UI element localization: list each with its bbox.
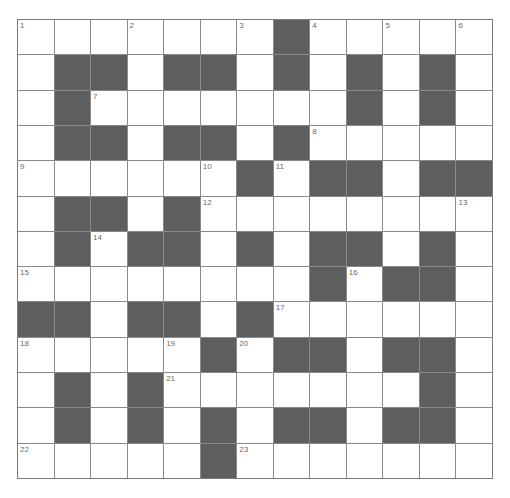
crossword-cell[interactable] [310,55,346,89]
crossword-cell[interactable] [201,267,237,301]
crossword-cell[interactable] [456,338,492,372]
crossword-cell[interactable] [237,126,273,160]
crossword-cell[interactable] [201,232,237,266]
crossword-cell[interactable] [164,267,200,301]
crossword-cell[interactable] [347,302,383,336]
crossword-cell[interactable] [91,408,127,442]
crossword-cell[interactable] [310,91,346,125]
crossword-cell[interactable] [456,55,492,89]
crossword-cell[interactable] [18,91,54,125]
crossword-cell[interactable] [383,373,419,407]
crossword-cell[interactable] [128,338,164,372]
crossword-cell[interactable] [201,91,237,125]
crossword-cell[interactable] [91,20,127,54]
crossword-cell[interactable] [128,126,164,160]
crossword-cell[interactable] [55,444,91,478]
crossword-cell[interactable] [383,232,419,266]
crossword-cell[interactable] [274,444,310,478]
crossword-cell[interactable]: 18 [18,338,54,372]
crossword-cell[interactable] [383,55,419,89]
crossword-cell[interactable]: 8 [310,126,346,160]
crossword-cell[interactable] [456,408,492,442]
crossword-cell[interactable] [456,302,492,336]
crossword-cell[interactable] [128,91,164,125]
crossword-cell[interactable]: 3 [237,20,273,54]
crossword-cell[interactable] [91,161,127,195]
crossword-cell[interactable] [310,444,346,478]
crossword-cell[interactable] [128,267,164,301]
crossword-cell[interactable] [310,302,346,336]
crossword-cell[interactable]: 15 [18,267,54,301]
crossword-cell[interactable] [347,373,383,407]
crossword-cell[interactable] [420,126,456,160]
crossword-cell[interactable]: 2 [128,20,164,54]
crossword-cell[interactable] [128,55,164,89]
crossword-cell[interactable]: 23 [237,444,273,478]
crossword-cell[interactable]: 21 [164,373,200,407]
crossword-cell[interactable]: 7 [91,91,127,125]
crossword-cell[interactable] [164,91,200,125]
crossword-cell[interactable]: 12 [201,197,237,231]
crossword-cell[interactable] [164,20,200,54]
crossword-cell[interactable] [274,373,310,407]
crossword-cell[interactable] [383,91,419,125]
crossword-cell[interactable] [347,197,383,231]
crossword-cell[interactable] [420,197,456,231]
crossword-cell[interactable]: 5 [383,20,419,54]
crossword-cell[interactable] [237,408,273,442]
crossword-cell[interactable] [274,267,310,301]
crossword-cell[interactable]: 22 [18,444,54,478]
crossword-cell[interactable] [383,444,419,478]
crossword-cell[interactable] [128,161,164,195]
crossword-cell[interactable] [91,338,127,372]
crossword-cell[interactable] [456,267,492,301]
crossword-cell[interactable] [164,444,200,478]
crossword-cell[interactable] [347,20,383,54]
crossword-cell[interactable] [18,373,54,407]
crossword-cell[interactable]: 17 [274,302,310,336]
crossword-cell[interactable] [18,232,54,266]
crossword-cell[interactable] [237,373,273,407]
crossword-cell[interactable] [420,302,456,336]
crossword-cell[interactable] [201,20,237,54]
crossword-cell[interactable] [456,444,492,478]
crossword-cell[interactable] [383,126,419,160]
crossword-cell[interactable] [55,267,91,301]
crossword-cell[interactable] [55,20,91,54]
crossword-cell[interactable]: 13 [456,197,492,231]
crossword-cell[interactable] [274,91,310,125]
crossword-cell[interactable] [383,197,419,231]
crossword-cell[interactable] [456,91,492,125]
crossword-cell[interactable] [347,444,383,478]
crossword-cell[interactable] [18,55,54,89]
crossword-cell[interactable]: 19 [164,338,200,372]
crossword-cell[interactable] [383,161,419,195]
crossword-cell[interactable] [91,267,127,301]
crossword-cell[interactable]: 20 [237,338,273,372]
crossword-cell[interactable] [128,197,164,231]
crossword-cell[interactable] [18,408,54,442]
crossword-cell[interactable] [237,91,273,125]
crossword-cell[interactable] [91,373,127,407]
crossword-cell[interactable] [201,302,237,336]
crossword-cell[interactable] [237,267,273,301]
crossword-cell[interactable] [164,408,200,442]
crossword-cell[interactable] [18,197,54,231]
crossword-cell[interactable]: 6 [456,20,492,54]
crossword-cell[interactable] [91,444,127,478]
crossword-cell[interactable]: 10 [201,161,237,195]
crossword-cell[interactable]: 11 [274,161,310,195]
crossword-cell[interactable] [91,302,127,336]
crossword-cell[interactable]: 14 [91,232,127,266]
crossword-cell[interactable] [310,373,346,407]
crossword-cell[interactable]: 16 [347,267,383,301]
crossword-cell[interactable] [420,20,456,54]
crossword-cell[interactable] [18,126,54,160]
crossword-cell[interactable] [347,338,383,372]
crossword-cell[interactable] [274,197,310,231]
crossword-cell[interactable] [347,126,383,160]
crossword-cell[interactable] [201,373,237,407]
crossword-cell[interactable]: 4 [310,20,346,54]
crossword-cell[interactable] [456,232,492,266]
crossword-cell[interactable] [128,444,164,478]
